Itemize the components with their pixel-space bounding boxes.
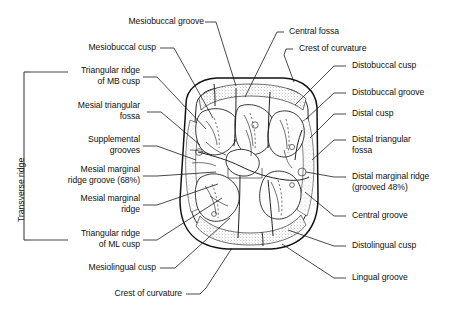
leader-crest-top xyxy=(284,49,294,82)
label-lingual-groove: Lingual groove xyxy=(352,272,455,283)
label-crest-of-curvature-top: Crest of curvature xyxy=(299,43,429,54)
label-mesial-marginal-ridge: Mesial marginal ridge xyxy=(30,193,140,216)
label-distolingual-cusp: Distolingual cusp xyxy=(352,240,455,251)
label-mesial-marginal-ridge-groove: Mesial marginal ridge groove (68%) xyxy=(20,164,140,187)
leader-lingual-groove xyxy=(282,244,346,278)
label-distal-triangular-fossa: Distal triangular fossa xyxy=(352,134,455,157)
label-mesiobuccal-cusp: Mesiobuccal cusp xyxy=(30,42,156,53)
leader-mesiobuccal-groove xyxy=(205,22,236,86)
figure-canvas: Transverse ridge Mesiobuccal groove Cent… xyxy=(0,0,455,316)
label-supplemental-grooves: Supplemental grooves xyxy=(30,134,140,157)
label-distobuccal-cusp: Distobuccal cusp xyxy=(352,60,455,71)
leader-crest-bottom xyxy=(186,248,232,294)
label-triangular-ridge-of-ml-cusp: Triangular ridge of ML cusp xyxy=(30,228,140,251)
label-distal-cusp: Distal cusp xyxy=(352,108,455,119)
label-triangular-ridge-of-mb-cusp: Triangular ridge of MB cusp xyxy=(30,65,140,88)
cusp-distal xyxy=(260,171,301,219)
label-distobuccal-groove: Distobuccal groove xyxy=(352,87,455,98)
label-crest-of-curvature-bottom: Crest of curvature xyxy=(56,288,182,299)
label-mesial-triangular-fossa: Mesial triangular fossa xyxy=(30,100,140,123)
label-mesiobuccal-groove: Mesiobuccal groove xyxy=(60,16,204,27)
label-central-groove: Central groove xyxy=(352,210,455,221)
label-central-fossa: Central fossa xyxy=(289,26,409,37)
label-distal-marginal-ridge: Distal marginal ridge (grooved 48%) xyxy=(352,171,455,194)
label-mesiolingual-cusp: Mesiolingual cusp xyxy=(30,262,156,273)
